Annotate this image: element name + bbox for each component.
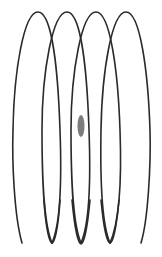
- coil-drawing: [0, 0, 162, 257]
- coil-bottom-1: [44, 200, 60, 243]
- coil-loop-1: [13, 12, 61, 243]
- coil-bottom-2: [72, 200, 90, 244]
- coil-bottom-3: [101, 200, 119, 243]
- coil-figure: Side view of a helical coil drawn as fou…: [0, 0, 162, 257]
- shaded-blob: [78, 115, 85, 137]
- coil-loop-4: [101, 12, 150, 243]
